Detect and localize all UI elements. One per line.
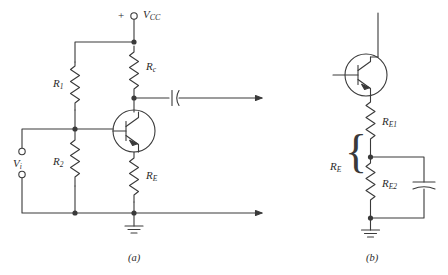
circuit-drawing [0, 0, 448, 275]
transistor-q1-collector-lead [126, 112, 139, 127]
transistor-q2-collector-lead [358, 57, 371, 71]
resistor-r1-symbol [71, 62, 80, 110]
re1-label: RE1 [382, 116, 397, 127]
r2-label: R2 [53, 156, 63, 167]
input-bottom-wire [22, 178, 75, 213]
resistor-rc-symbol [130, 46, 139, 98]
input-top-wire [22, 129, 75, 148]
re-total-brace-icon: { [345, 129, 367, 175]
vi-label: Vi [13, 158, 22, 169]
cap-branch-top-wire [371, 157, 425, 182]
re2-label: RE2 [382, 178, 397, 189]
rc-label: Rc [146, 61, 156, 72]
input-terminal-top-icon [19, 148, 25, 154]
vcc-terminal-icon [131, 13, 137, 19]
input-terminal-bottom-icon [19, 171, 25, 177]
resistor-re2-symbol [366, 157, 375, 207]
top-rail-to-r1 [75, 42, 134, 62]
resistor-re-symbol [130, 152, 139, 202]
node-dot-vcc-rail [131, 39, 136, 44]
cap-branch-bottom-wire [371, 189, 425, 218]
vcc-label: VCC [143, 9, 160, 20]
resistor-re1-symbol [366, 96, 375, 146]
arrow-right-icon-output-bottom [256, 211, 263, 216]
arrow-right-icon-output-top [256, 96, 263, 101]
figure-root: + VCC R1 R2 Rc RE Vi (a) RE1 RE2 { RE (b… [0, 0, 448, 275]
caption-a: (a) [128, 252, 140, 263]
re-label: RE [146, 170, 157, 181]
re-total-label: RE [330, 161, 341, 172]
r1-label: R1 [53, 78, 63, 89]
vcc-polarity-sign: + [118, 9, 124, 21]
caption-b: (b) [366, 252, 378, 263]
resistor-r2-symbol [71, 129, 80, 186]
